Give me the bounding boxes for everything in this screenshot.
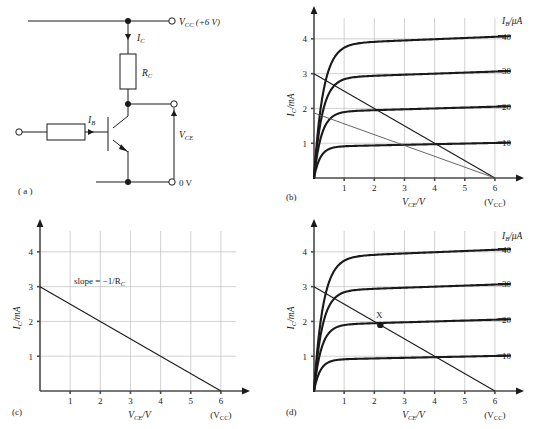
y-axis-arrowhead [37,219,44,227]
axes-c [37,219,250,394]
vcc-annotation: (VCC) [484,197,505,208]
characteristic-curve [314,319,510,391]
base-current-label: IB [87,115,95,126]
gridlines-c [40,231,236,391]
vcc-annotation: (VCC) [210,410,231,421]
axes-d [311,219,524,394]
x-axis-title: VCE/V [402,410,426,421]
x-tick-label: 6 [493,396,498,406]
base-current-arrow [88,129,94,135]
operating-point-dot [377,322,383,328]
legend-label: 40 [502,32,512,42]
x-tick-label: 4 [432,183,437,193]
x-tick-label: 6 [493,183,498,193]
x-tick-label: 3 [402,183,407,193]
legend-label: 20 [502,102,512,112]
x-tick-label: 5 [189,396,194,406]
x-tick-label: 1 [342,396,347,406]
x-axis-title: VCE/V [402,197,426,208]
resistor-rc-body [120,54,136,89]
y-tick-label: 4 [303,247,308,257]
gridlines-d [314,231,510,391]
x-tick-label: 4 [158,396,163,406]
x-tick-label: 5 [463,396,468,406]
axes-b [311,6,524,181]
y-tick-label: 2 [303,317,308,327]
panel-b-characteristics: 1234561234VCE/VIC/mA(VCC) IB/μA40302010 … [274,0,548,215]
collector-current-arrow [125,34,131,40]
panel-label-b: (b) [286,192,297,202]
characteristic-curve [314,71,510,178]
legend-label: 10 [502,351,512,361]
panel-d-operating-point: 1234561234VCE/VIC/mA(VCC) IB/μA40302010 … [274,215,548,429]
x-tick-label: 6 [219,396,224,406]
loadline-chart-c: 1234561234VCE/VIC/mA(VCC) slope = −1/RC … [0,215,274,429]
x-axis-arrowhead [242,388,250,395]
transistor-collector-lead [113,116,128,128]
legend-label: 20 [502,315,512,325]
legend-label: 10 [502,138,512,148]
x-tick-label: 2 [98,396,103,406]
operating-point-label: X [376,310,383,320]
y-axis-arrowhead [311,6,318,14]
x-tick-label: 1 [68,396,73,406]
x-tick-label: 3 [402,396,407,406]
slope-annotation: slope = −1/RC [74,276,126,287]
circuit-diagram: IC RC IB VCC (+6 V) 0 V VCE ( a ) [0,0,274,215]
y-tick-label: 2 [29,317,34,327]
x-tick-label: 5 [463,183,468,193]
x-tick-label: 2 [372,183,377,193]
y-tick-label: 1 [303,139,308,149]
y-axis-title: IC/mA [286,93,297,117]
gridlines-b [314,18,510,178]
panel-a-circuit: IC RC IB VCC (+6 V) 0 V VCE ( a ) [0,0,274,215]
curves-b [314,36,510,178]
y-tick-label: 1 [303,352,308,362]
ground-label: 0 V [179,178,193,188]
characteristic-curve [314,106,510,178]
x-tick-label: 3 [128,396,133,406]
vce-arrow [171,110,177,116]
legend-b: IB/μA40302010 [498,16,523,148]
legend-title: IB/μA [501,16,523,27]
operating-point-chart-d: 1234561234VCE/VIC/mA(VCC) IB/μA40302010 … [274,215,548,429]
vce-label: VCE [179,130,193,141]
vcc-annotation: (VCC) [484,410,505,421]
curves-d [314,249,510,391]
junction-dot-bottom [125,179,131,185]
y-axis-arrowhead [311,219,318,227]
characteristic-curve [314,356,510,391]
y-tick-label: 3 [303,69,308,79]
resistor-rb-body [47,124,85,140]
legend-label: 40 [502,245,512,255]
panel-label-c: (c) [12,407,22,417]
y-axis-title: IC/mA [12,306,23,330]
resistor-rc-label: RC [141,68,153,79]
y-tick-label: 1 [29,352,34,362]
x-axis-title: VCE/V [128,410,152,421]
x-tick-label: 1 [342,183,347,193]
y-axis-title: IC/mA [286,306,297,330]
x-axis-arrowhead [516,175,524,182]
supply-label: VCC (+6 V) [179,17,220,28]
y-tick-label: 3 [303,282,308,292]
legend-label: 30 [502,279,512,289]
characteristic-curve [314,284,510,391]
panel-c-loadline: 1234561234VCE/VIC/mA(VCC) slope = −1/RC … [0,215,274,429]
panel-label-d: (d) [286,407,297,417]
legend-label: 30 [502,66,512,76]
output-characteristics-chart-b: 1234561234VCE/VIC/mA(VCC) IB/μA40302010 … [274,0,548,215]
ground-terminal [169,179,175,185]
operating-point-d: X [376,310,383,328]
x-axis-arrowhead [516,388,524,395]
supply-terminal [169,18,175,24]
y-tick-label: 3 [29,282,34,292]
legend-title: IB/μA [501,231,523,242]
figure-root: IC RC IB VCC (+6 V) 0 V VCE ( a ) 123456… [0,0,548,429]
y-tick-label: 4 [303,34,308,44]
legend-d: IB/μA40302010 [498,231,523,361]
y-tick-label: 2 [303,104,308,114]
x-tick-label: 2 [372,396,377,406]
output-terminal-top [171,101,177,107]
input-terminal [16,129,22,135]
